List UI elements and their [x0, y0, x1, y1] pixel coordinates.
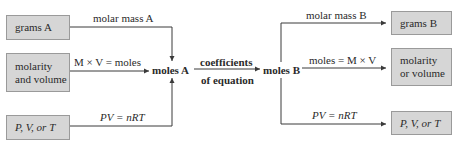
box-pvt-b: P, V, or T [391, 111, 452, 135]
box-molarity-line-1: molarity [15, 60, 69, 73]
box-molarity-line-2: and volume [15, 73, 69, 86]
label-molar-mass-a: molar mass A [93, 12, 154, 24]
label-mxv-moles: M × V = moles [74, 56, 141, 68]
label-moles-b: moles B [263, 64, 300, 76]
label-of-equation: of equation [201, 74, 254, 86]
label-pv-nrt-right: PV = nRT [312, 109, 357, 121]
box-grams-a-label: grams A [15, 21, 69, 34]
box-molarity-or-volume-line-1: molarity [400, 54, 451, 67]
box-molarity-and-volume: molarity and volume [6, 53, 70, 92]
box-pvt-b-label: P, V, or T [400, 117, 451, 130]
label-molar-mass-b: molar mass B [306, 9, 367, 21]
box-molarity-or-volume-line-2: or volume [400, 67, 451, 80]
label-pv-nrt-left: PV = nRT [100, 111, 145, 123]
box-pvt-a-label: P, V, or T [15, 121, 69, 134]
label-coefficients: coefficients [200, 56, 253, 68]
box-grams-b-label: grams B [400, 17, 451, 30]
box-molarity-or-volume: molarity or volume [391, 48, 452, 86]
box-pvt-a: P, V, or T [6, 115, 70, 140]
box-grams-a: grams A [6, 15, 70, 40]
label-moles-mxv: moles = M × V [309, 54, 376, 66]
label-moles-a: moles A [152, 64, 189, 76]
box-grams-b: grams B [391, 11, 452, 35]
